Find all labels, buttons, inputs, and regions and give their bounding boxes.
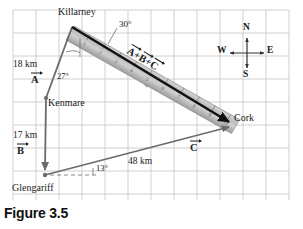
vector-c-overarrow-icon xyxy=(190,139,202,143)
vector-b-overarrow-icon xyxy=(17,142,29,146)
vector-b-symbol: B xyxy=(17,145,24,156)
vector-c-magnitude-label: 48 km xyxy=(128,157,152,167)
figure-3-5-container: 1 2 3 4 5 6 7 8 9 10 cm xyxy=(0,0,303,229)
city-label-cork: Cork xyxy=(234,113,254,124)
angle-30-label: 30° xyxy=(119,20,132,29)
vector-b-magnitude-label: 17 km xyxy=(13,131,37,141)
compass-label-east: E xyxy=(267,46,273,56)
compass-label-west: W xyxy=(217,46,227,56)
city-label-kenmare: Kenmare xyxy=(48,98,85,109)
city-label-glengariff: Glengariff xyxy=(12,183,53,194)
vector-b-line xyxy=(45,98,46,170)
vector-diagram-svg: 1 2 3 4 5 6 7 8 9 10 cm xyxy=(0,0,303,229)
vector-a-magnitude-label: 18 km xyxy=(13,60,37,70)
vector-a-letter: A xyxy=(31,74,39,85)
vector-b-letter: B xyxy=(17,145,24,156)
angle-27-label: 27° xyxy=(57,72,69,81)
vector-a-symbol: A xyxy=(31,74,39,85)
compass-label-south: S xyxy=(243,70,248,80)
vector-c-symbol: C xyxy=(190,142,198,153)
city-label-killarney: Killarney xyxy=(58,7,96,18)
angle-13-label: 13° xyxy=(96,164,108,173)
vector-c-letter: C xyxy=(190,142,198,153)
vector-a-overarrow-icon xyxy=(31,71,43,75)
glengariff-point xyxy=(43,173,47,177)
compass-label-north: N xyxy=(243,23,250,33)
figure-caption: Figure 3.5 xyxy=(4,205,68,221)
